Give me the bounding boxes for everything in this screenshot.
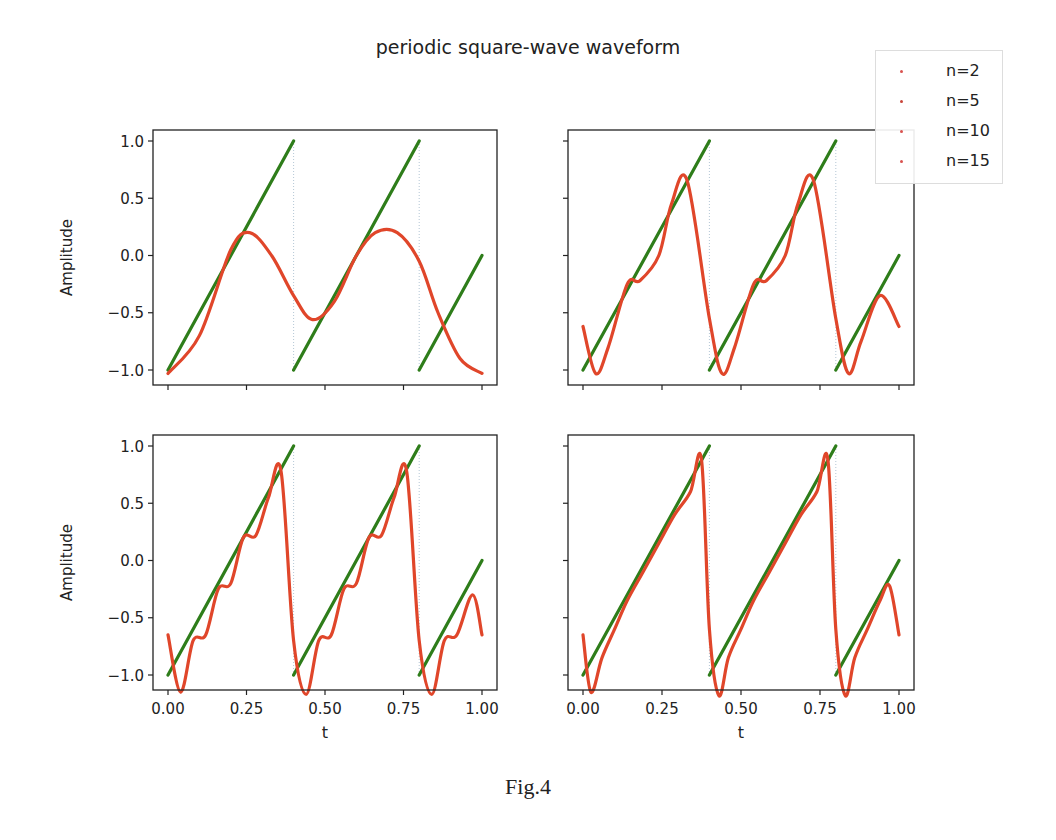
y-tick-label: −0.5 <box>108 304 144 322</box>
figure-caption: Fig.4 <box>0 774 1056 800</box>
legend-item-n2: n=2 <box>876 59 1004 85</box>
x-tick-label: 0.25 <box>645 700 678 718</box>
legend-label: n=2 <box>946 61 980 80</box>
legend-label: n=15 <box>946 151 990 170</box>
sawtooth-line <box>168 446 482 675</box>
fourier-series-line-n=15 <box>583 453 899 696</box>
subplot-bottom-right: 0.000.250.500.751.00t <box>563 435 916 742</box>
y-tick-label: 0.5 <box>120 495 144 513</box>
subplot-top-left: 1.00.50.0−0.5−1.0Amplitude <box>58 130 497 390</box>
x-tick-label: 0.00 <box>151 700 184 718</box>
x-axis-label: t <box>322 723 328 742</box>
x-tick-label: 0.50 <box>308 700 341 718</box>
axes-frame <box>568 130 914 385</box>
y-tick-label: 0.5 <box>120 190 144 208</box>
legend-item-n5: n=5 <box>876 89 1004 115</box>
x-tick-label: 0.75 <box>803 700 836 718</box>
y-tick-label: 0.0 <box>120 247 144 265</box>
x-tick-label: 1.00 <box>465 700 498 718</box>
fourier-series-line-n=2 <box>168 229 482 373</box>
y-tick-label: −1.0 <box>108 362 144 380</box>
axes-frame <box>568 435 914 690</box>
x-tick-label: 0.50 <box>724 700 757 718</box>
x-axis-label: t <box>738 723 744 742</box>
legend-label: n=10 <box>946 121 990 140</box>
subplot-bottom-left: 1.00.50.0−0.5−1.00.000.250.500.751.00Amp… <box>58 435 499 742</box>
legend-marker-icon <box>900 130 903 133</box>
x-tick-label: 1.00 <box>882 700 915 718</box>
legend-label: n=5 <box>946 91 980 110</box>
legend-item-n15: n=15 <box>876 149 1004 175</box>
y-axis-label: Amplitude <box>58 219 76 296</box>
y-tick-label: 0.0 <box>120 552 144 570</box>
y-tick-label: −1.0 <box>108 667 144 685</box>
legend-marker-icon <box>900 160 903 163</box>
y-axis-label: Amplitude <box>58 524 76 601</box>
fourier-series-line-n=10 <box>168 464 482 695</box>
legend-item-n10: n=10 <box>876 119 1004 145</box>
sawtooth-line <box>583 446 899 675</box>
axes-frame <box>153 130 497 385</box>
y-tick-label: 1.0 <box>120 133 144 151</box>
legend-marker-icon <box>900 70 903 73</box>
axes-frame <box>153 435 497 690</box>
y-tick-label: 1.0 <box>120 438 144 456</box>
x-tick-label: 0.75 <box>387 700 420 718</box>
sawtooth-line <box>583 141 899 370</box>
y-tick-label: −0.5 <box>108 609 144 627</box>
subplot-top-right <box>563 130 914 390</box>
x-tick-label: 0.25 <box>230 700 263 718</box>
legend-marker-icon <box>900 100 903 103</box>
x-tick-label: 0.00 <box>566 700 599 718</box>
legend: n=2 n=5 n=10 n=15 <box>875 50 1003 184</box>
sawtooth-line <box>168 141 482 370</box>
